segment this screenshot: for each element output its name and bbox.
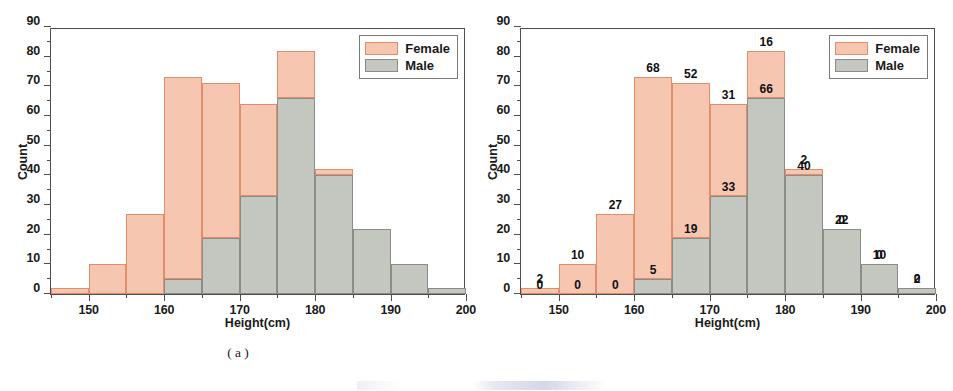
bar-segment-male	[428, 288, 466, 294]
bar-segment-male	[672, 238, 710, 294]
x-axis-minor-tick	[202, 294, 203, 298]
histogram-bar	[315, 27, 353, 294]
x-axis-tick-label: 180	[775, 303, 795, 317]
y-axis-tick-label: 30	[496, 192, 510, 206]
panel-b: Count 0102030405060708090150160170180190…	[470, 0, 946, 345]
x-axis-tick-label: 160	[624, 303, 644, 317]
x-axis-minor-tick	[277, 294, 278, 298]
y-axis-minor-tick	[47, 219, 51, 220]
y-axis-minor-tick	[517, 189, 521, 190]
y-axis-minor-tick	[517, 71, 521, 72]
bar-segment-male	[785, 175, 823, 294]
y-axis-tick-label: 90	[26, 14, 40, 28]
y-axis-tick-label: 60	[496, 103, 510, 117]
y-axis-minor-tick	[47, 278, 51, 279]
plot-area-a: 0102030405060708090150160170180190200 Fe…	[50, 28, 465, 295]
y-axis-tick-label: 50	[26, 133, 40, 147]
y-axis-tick-label: 40	[496, 162, 510, 176]
y-axis-tick	[514, 293, 521, 294]
y-axis-minor-tick	[517, 41, 521, 42]
x-axis-tick-label: 200	[926, 303, 946, 317]
y-axis-minor-tick	[517, 278, 521, 279]
legend-entry-male: Male	[835, 57, 920, 74]
y-axis-tick	[44, 293, 51, 294]
y-axis-tick	[44, 85, 51, 86]
x-axis-tick-label: 190	[850, 303, 870, 317]
bar-segment-female	[634, 77, 672, 279]
y-axis-tick-label: 80	[26, 44, 40, 58]
x-axis-minor-tick	[747, 294, 748, 298]
y-axis-minor-tick	[47, 249, 51, 250]
legend-label-male: Male	[875, 59, 904, 72]
x-axis-minor-tick	[428, 294, 429, 298]
x-axis-tick	[861, 294, 862, 301]
y-axis-minor-tick	[47, 160, 51, 161]
value-label-male: 5	[650, 263, 657, 277]
bar-segment-female	[202, 83, 240, 237]
caption-b: ( b )	[940, 345, 953, 361]
bar-segment-male	[277, 98, 315, 294]
bar-segment-male	[747, 98, 785, 294]
y-axis-tick	[44, 263, 51, 264]
x-axis-minor-tick	[672, 294, 673, 298]
x-axis-minor-tick	[126, 294, 127, 298]
y-axis-tick-label: 60	[26, 103, 40, 117]
bar-segment-female	[277, 51, 315, 98]
x-axis-tick	[936, 294, 937, 301]
y-axis-tick	[44, 204, 51, 205]
value-label-male: 2	[914, 272, 921, 286]
bar-segment-male	[898, 288, 936, 294]
bar-segment-male	[823, 229, 861, 294]
y-axis-tick	[514, 115, 521, 116]
y-axis-tick-label: 70	[496, 73, 510, 87]
x-axis-tick	[240, 294, 241, 301]
value-label-male: 40	[797, 159, 810, 173]
y-axis-minor-tick	[517, 130, 521, 131]
legend-label-female: Female	[875, 42, 920, 55]
value-label-male: 0	[612, 278, 619, 292]
figure: Count 0102030405060708090150160170180190…	[0, 0, 953, 391]
legend-b: Female Male	[829, 35, 928, 79]
value-label-male: 0	[537, 278, 544, 292]
legend-swatch-female	[365, 42, 398, 55]
y-axis-minor-tick	[47, 71, 51, 72]
y-axis-tick-label: 10	[26, 251, 40, 265]
legend-swatch-male	[365, 59, 398, 72]
legend-entry-female: Female	[365, 40, 450, 57]
y-axis-minor-tick	[517, 160, 521, 161]
legend-a: Female Male	[359, 35, 458, 79]
x-axis-tick-label: 190	[380, 303, 400, 317]
y-axis-tick-label: 10	[496, 251, 510, 265]
value-label-male: 0	[574, 278, 581, 292]
y-axis-minor-tick	[47, 41, 51, 42]
y-axis-minor-tick	[47, 189, 51, 190]
bar-segment-female	[315, 169, 353, 175]
legend-label-male: Male	[405, 59, 434, 72]
y-axis-tick-label: 20	[496, 222, 510, 236]
bar-segment-male	[861, 264, 899, 294]
bar-segment-female	[89, 264, 127, 294]
bar-segment-male	[391, 264, 429, 294]
histogram-bar	[710, 27, 748, 294]
y-axis-tick-label: 70	[26, 73, 40, 87]
plot-area-b: 0102030405060708090150160170180190200201…	[520, 28, 935, 295]
y-axis-tick	[514, 85, 521, 86]
value-label-male: 22	[835, 213, 848, 227]
x-axis-tick	[89, 294, 90, 301]
value-label-female: 27	[609, 198, 622, 212]
y-axis-tick-label: 30	[26, 192, 40, 206]
bar-segment-female	[164, 77, 202, 279]
bar-segment-female	[126, 214, 164, 294]
value-label-female: 68	[646, 61, 659, 75]
y-axis-tick	[514, 145, 521, 146]
y-axis-tick	[514, 56, 521, 57]
x-axis-minor-tick	[51, 294, 52, 298]
y-axis-tick-label: 20	[26, 222, 40, 236]
x-axis-minor-tick	[521, 294, 522, 298]
panel-a: Count 0102030405060708090150160170180190…	[0, 0, 476, 345]
histogram-bar	[521, 27, 559, 294]
value-label-male: 33	[722, 180, 735, 194]
value-label-male: 19	[684, 222, 697, 236]
legend-swatch-female	[835, 42, 868, 55]
bar-segment-male	[353, 229, 391, 294]
